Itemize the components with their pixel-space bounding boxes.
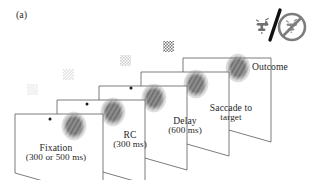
water-faucet-icon	[256, 18, 268, 34]
target-stimulus	[226, 54, 250, 82]
cue-patch	[120, 55, 131, 66]
frame-label-sub: (600 ms)	[143, 126, 227, 136]
fixation-dot	[49, 118, 52, 121]
target-stimulus	[101, 98, 125, 126]
fixation-dot	[86, 103, 89, 106]
frame-label-main: Outcome	[252, 62, 318, 72]
frame-label-sub: (300 ms)	[88, 140, 172, 150]
cue-patch	[163, 41, 174, 52]
reward-or-no-reward-icon	[256, 10, 305, 40]
target-stimulus	[142, 84, 166, 112]
figure-panel-a: (a)	[0, 0, 319, 180]
target-stimulus	[62, 112, 86, 140]
frame-label-sub: (300 or 500 ms)	[0, 153, 112, 163]
fixation-dot	[130, 87, 133, 90]
frame-label-sub: target	[190, 113, 272, 123]
no-water-faucet-prohibited-icon	[279, 14, 305, 40]
frame-label-saccade: Saccade to target	[190, 103, 272, 123]
cue-patch	[63, 69, 74, 80]
frame-label-outcome: Outcome	[252, 62, 318, 72]
prohibition-bar	[283, 18, 301, 36]
target-stimulus	[184, 70, 208, 98]
cue-patch	[27, 84, 38, 95]
